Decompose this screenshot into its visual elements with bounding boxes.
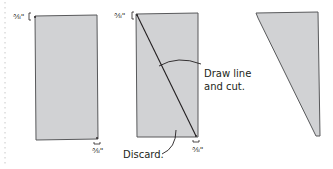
discard-callout: Discard. — [123, 149, 164, 160]
corner-dot-top — [136, 14, 138, 16]
panel-1-rectangle: ⅜" ⅜" — [13, 12, 103, 155]
bracket-mark-bottom — [193, 140, 199, 142]
cutting-diagram: ⅜" ⅜" ⅜" ⅜" Draw line and cut. Discard. — [0, 0, 333, 169]
panel1-top-label: ⅜" — [13, 12, 24, 21]
draw-line-callout-line2: and cut. — [204, 81, 245, 92]
panel2-top-label: ⅜" — [114, 11, 125, 20]
panel-2-rectangle-with-cut: ⅜" ⅜" Draw line and cut. Discard. — [114, 11, 251, 160]
panel-3-cut-piece — [256, 12, 320, 136]
corner-dot-top — [34, 16, 36, 18]
corner-dot-bottom — [96, 137, 98, 139]
rectangle-shape — [35, 15, 98, 140]
bracket-mark-bottom — [94, 142, 100, 144]
panel2-bottom-label: ⅜" — [192, 145, 203, 154]
bracket-mark-top — [29, 13, 31, 20]
corner-dot-bottom — [195, 135, 197, 137]
cut-piece-shape — [256, 12, 320, 136]
draw-line-callout-line1: Draw line — [204, 68, 251, 79]
panel1-bottom-label: ⅜" — [92, 146, 103, 155]
bracket-mark-top — [132, 12, 134, 19]
